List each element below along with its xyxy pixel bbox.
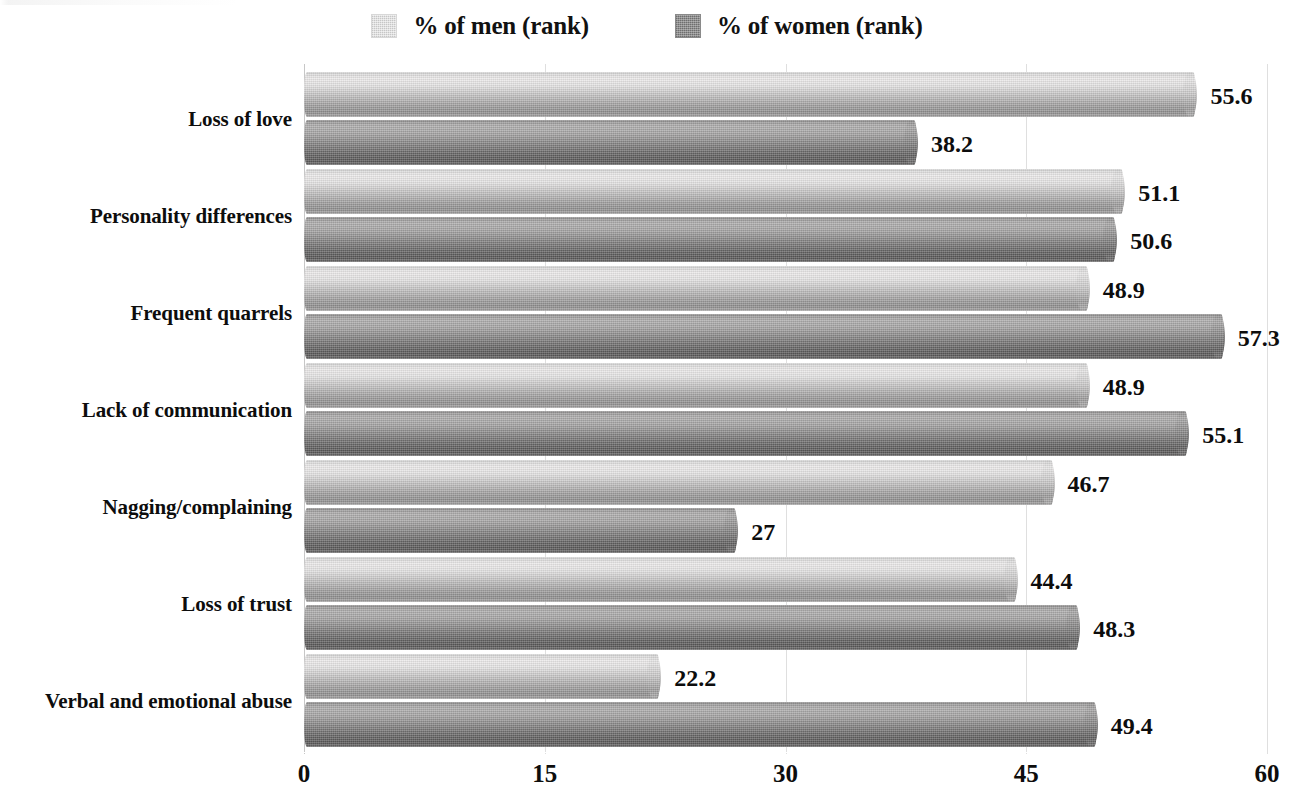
- gridline-30: [786, 64, 787, 754]
- value-label-men-4: 46.7: [1068, 470, 1110, 497]
- value-label-men-1: 51.1: [1138, 179, 1180, 206]
- x-tick-label-30: 30: [773, 760, 798, 788]
- value-label-men-0: 55.6: [1210, 82, 1252, 109]
- bar-women-3: [304, 411, 1188, 456]
- bar-women-5: [304, 605, 1079, 650]
- x-axis-line: [304, 752, 1226, 753]
- x-tick-label-60: 60: [1255, 760, 1280, 788]
- value-label-men-3: 48.9: [1103, 373, 1145, 400]
- category-label-4: Nagging/complaining: [0, 495, 292, 520]
- value-label-men-6: 22.2: [674, 664, 716, 691]
- value-label-women-0: 38.2: [931, 130, 973, 157]
- bar-body: [304, 605, 1079, 650]
- bar-women-6: [304, 702, 1097, 747]
- gridline-45: [1026, 64, 1027, 754]
- category-label-0: Loss of love: [0, 107, 292, 132]
- category-label-1: Personality differences: [0, 204, 292, 229]
- value-label-men-2: 48.9: [1103, 276, 1145, 303]
- x-tick-label-0: 0: [298, 760, 311, 788]
- value-label-women-5: 48.3: [1093, 615, 1135, 642]
- bar-body: [304, 363, 1089, 408]
- bar-body: [304, 120, 917, 165]
- gridline-15: [545, 64, 546, 754]
- bar-women-2: [304, 314, 1224, 359]
- bar-men-2: [304, 266, 1089, 311]
- bar-body: [304, 557, 1017, 602]
- bar-women-4: [304, 508, 737, 553]
- value-label-women-4: 27: [751, 518, 775, 545]
- category-label-2: Frequent quarrels: [0, 301, 292, 326]
- category-label-5: Loss of trust: [0, 592, 292, 617]
- bar-body: [304, 654, 660, 699]
- bar-body: [304, 460, 1054, 505]
- bar-women-1: [304, 217, 1116, 262]
- bar-women-0: [304, 120, 917, 165]
- value-label-women-3: 55.1: [1202, 421, 1244, 448]
- gridline-0: [304, 64, 305, 754]
- x-tick-label-15: 15: [532, 760, 557, 788]
- bar-body: [304, 411, 1188, 456]
- chart-root: % of men (rank) % of women (rank) 015304…: [0, 0, 1294, 810]
- value-label-women-2: 57.3: [1238, 324, 1280, 351]
- bar-body: [304, 508, 737, 553]
- bar-body: [304, 169, 1124, 214]
- bar-men-5: [304, 557, 1017, 602]
- bar-body: [304, 266, 1089, 311]
- bar-body: [304, 702, 1097, 747]
- value-label-women-6: 49.4: [1111, 712, 1153, 739]
- bar-body: [304, 72, 1196, 117]
- bar-men-4: [304, 460, 1054, 505]
- bar-body: [304, 217, 1116, 262]
- bar-body: [304, 314, 1224, 359]
- bar-men-1: [304, 169, 1124, 214]
- bar-men-0: [304, 72, 1196, 117]
- category-label-3: Lack of communication: [0, 398, 292, 423]
- plot-area: 015304560Loss of love55.638.2Personality…: [0, 0, 1294, 810]
- gridline-60: [1267, 64, 1268, 754]
- value-label-women-1: 50.6: [1130, 227, 1172, 254]
- bar-men-6: [304, 654, 660, 699]
- x-tick-label-45: 45: [1014, 760, 1039, 788]
- category-label-6: Verbal and emotional abuse: [0, 689, 292, 714]
- value-label-men-5: 44.4: [1031, 567, 1073, 594]
- bar-men-3: [304, 363, 1089, 408]
